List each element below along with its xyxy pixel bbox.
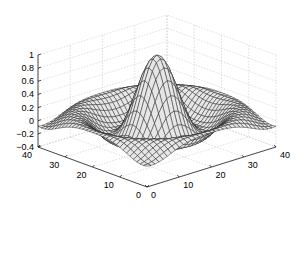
x-tick-label: 40: [280, 150, 290, 160]
z-tick-label: 0.8: [21, 63, 34, 73]
z-tick-label: 1: [29, 50, 34, 60]
y-tick-label: 30: [49, 160, 59, 170]
x-tick-label: 30: [248, 160, 258, 170]
y-tick-label: 10: [104, 180, 114, 190]
surface-plot: −0.4−0.200.20.40.60.81010203040010203040: [0, 0, 304, 255]
z-tick-label: 0.6: [21, 76, 34, 86]
surface-mesh: [38, 55, 276, 166]
z-tick-label: 0: [29, 116, 34, 126]
z-tick-label: −0.2: [16, 129, 34, 139]
z-tick-label: 0.4: [21, 89, 34, 99]
x-tick-label: 20: [216, 170, 226, 180]
y-tick-label: 20: [76, 170, 86, 180]
y-tick-label: 40: [22, 150, 32, 160]
x-tick-label: 10: [183, 180, 193, 190]
z-tick-label: 0.2: [21, 103, 34, 113]
x-tick-label: 0: [151, 190, 156, 200]
y-tick-label: 0: [136, 190, 141, 200]
